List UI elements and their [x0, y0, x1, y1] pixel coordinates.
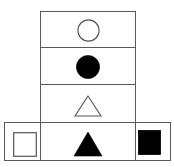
- triangle-outline-icon: [74, 95, 102, 117]
- shape-matrix-figure: [0, 0, 174, 167]
- circle-outline-icon: [77, 19, 100, 42]
- circle-filled-icon: [76, 55, 100, 79]
- square-filled-icon: [138, 130, 161, 155]
- triangle-filled-icon: [73, 131, 103, 157]
- square-outline-icon: [13, 132, 37, 157]
